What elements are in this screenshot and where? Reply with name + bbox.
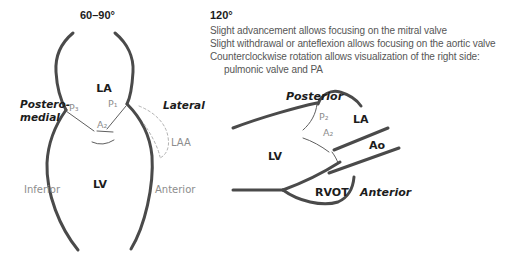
rvot-label: RVOT xyxy=(315,186,349,199)
p1-scallop-label: P₁ xyxy=(108,98,118,109)
anterior-wall-label: Anterior xyxy=(155,184,196,195)
anterior-label-right: Anterior xyxy=(359,186,412,199)
posterior-lv-wall-line xyxy=(233,103,317,128)
mitral-a2-leaflet-line xyxy=(97,131,113,132)
a2-scallop-label: A₂ xyxy=(97,119,107,130)
laa-label: LAA xyxy=(171,137,191,148)
p2-scallop-label: P₂ xyxy=(319,111,329,122)
heart-views-canvas: LA LV P₃ P₁ A₂ LAA Postero- medial Later… xyxy=(0,0,510,261)
long-axis-view-group: Posterior P₂ A₂ LA Ao LV RVOT Anterior xyxy=(233,90,412,204)
la-label: LA xyxy=(96,82,112,95)
la-label-right: LA xyxy=(353,113,369,126)
lv-label: LV xyxy=(93,178,107,191)
aorta-lower-wall-line xyxy=(329,148,399,173)
lv-label-right: LV xyxy=(268,150,282,163)
mitral-a2-anterior-leaflet-line xyxy=(303,138,329,152)
a2-scallop-label-right: A₂ xyxy=(323,127,333,138)
la-right-wall-line xyxy=(115,33,133,104)
inferior-label: Inferior xyxy=(24,184,61,195)
mitral-p3-leaflet-line xyxy=(66,111,94,131)
posteromedial-label-line2: medial xyxy=(20,111,60,123)
aorta-label: Ao xyxy=(369,139,386,152)
posterior-label: Posterior xyxy=(286,90,344,103)
lv-anterior-wall-line xyxy=(127,104,152,249)
mitral-p1-leaflet-line xyxy=(107,106,126,129)
mitral-p2-leaflet-line xyxy=(303,104,317,130)
posteromedial-label-line1: Postero- xyxy=(20,98,70,110)
p3-scallop-label: P₃ xyxy=(69,102,79,113)
lateral-label: Lateral xyxy=(163,99,205,111)
laa-dashed-outer-outline xyxy=(139,106,169,158)
mitral-coaptation-arc xyxy=(92,140,114,144)
tee-views-diagram: 60–90° 120° Slight advancement allows fo… xyxy=(0,0,510,261)
two-chamber-view-group: LA LV P₃ P₁ A₂ LAA Postero- medial Later… xyxy=(20,33,205,250)
lv-inferior-wall-line xyxy=(47,110,78,250)
aortic-valve-line xyxy=(332,152,338,163)
